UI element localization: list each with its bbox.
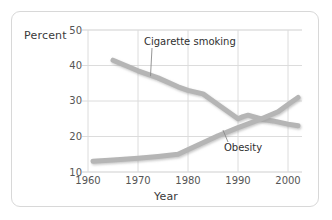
series-line-obesity xyxy=(93,98,298,162)
gridlines xyxy=(82,30,302,172)
line-chart: Percent Year 50 40 30 20 10 1960 1970 19… xyxy=(0,0,332,220)
series-label-obesity: Obesity xyxy=(224,142,262,153)
series-label-cigarette-smoking: Cigarette smoking xyxy=(144,36,236,47)
series-lines xyxy=(93,60,298,161)
leader-line xyxy=(151,48,153,76)
leader-lines xyxy=(151,48,229,142)
plot-canvas xyxy=(0,0,332,220)
